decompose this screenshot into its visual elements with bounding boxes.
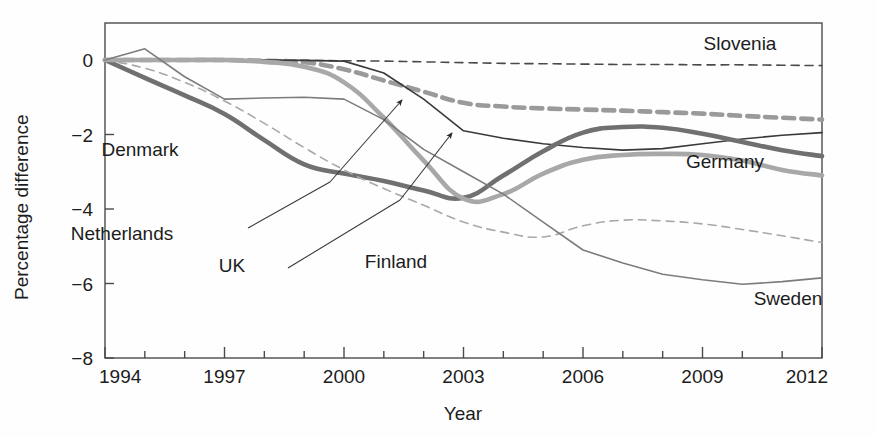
germany-arrow — [330, 100, 402, 182]
chart-figure: 0−2−4−6−8 1994199720002003200620092012 P… — [0, 0, 877, 437]
plot-border — [105, 23, 822, 358]
y-tick-label: −6 — [71, 274, 93, 295]
series-label-denmark: Denmark — [101, 139, 179, 160]
y-tick-label: −4 — [71, 199, 93, 220]
plot-frame — [105, 23, 822, 358]
x-tick-label: 2012 — [786, 366, 828, 387]
x-axis-ticks — [105, 347, 822, 358]
y-tick-label: 0 — [82, 50, 93, 71]
series-label-netherlands: Netherlands — [71, 223, 173, 244]
x-tick-label: 2000 — [323, 366, 365, 387]
x-axis-title: Year — [444, 403, 483, 424]
x-axis-tick-labels: 1994199720002003200620092012 — [99, 366, 828, 387]
y-axis-ticks — [105, 60, 114, 358]
y-tick-label: −8 — [71, 348, 93, 369]
x-tick-label: 1994 — [99, 366, 142, 387]
x-tick-label: 2009 — [681, 366, 723, 387]
x-tick-label: 1997 — [203, 366, 245, 387]
series-label-uk: UK — [219, 255, 246, 276]
series-labels-group: SloveniaGermanyUKDenmarkNetherlandsFinla… — [71, 33, 823, 309]
y-tick-label: −2 — [71, 125, 93, 146]
x-tick-label: 2003 — [442, 366, 484, 387]
series-label-slovenia: Slovenia — [704, 33, 777, 54]
y-axis-tick-labels: 0−2−4−6−8 — [71, 50, 93, 369]
y-axis-title: Percentage difference — [11, 114, 32, 300]
line-chart-svg: 0−2−4−6−8 1994199720002003200620092012 P… — [0, 0, 877, 437]
series-label-sweden: Sweden — [754, 288, 823, 309]
series-line-germany — [105, 60, 822, 120]
series-line-denmark — [105, 60, 822, 199]
x-tick-label: 2006 — [562, 366, 604, 387]
series-label-germany: Germany — [686, 151, 765, 172]
netherlands-leader — [248, 182, 330, 228]
series-label-finland: Finland — [365, 251, 427, 272]
annotation-leaders-group — [248, 100, 452, 268]
